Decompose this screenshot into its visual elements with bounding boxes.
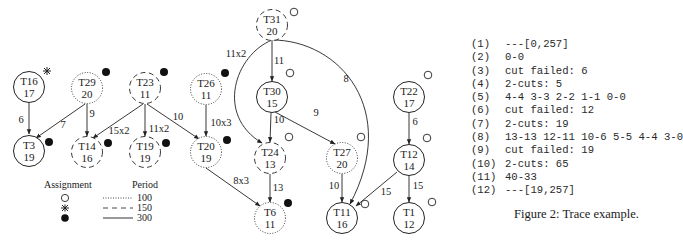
node-value: 11: [201, 89, 212, 101]
trace-line: (3)cut failed: 6: [471, 65, 683, 78]
legend-open-circle-icon: [61, 194, 68, 201]
node-t11: T1116: [327, 203, 358, 234]
trace-line-number: (7): [471, 118, 505, 131]
node-id: T3: [23, 139, 36, 151]
open-circle-icon: [357, 133, 365, 141]
trace-line: (8)13-13 12-11 10-6 5-5 4-4 3-0: [471, 131, 683, 144]
trace-line-text: 2-cuts: 5: [505, 78, 562, 90]
filled-circle-icon: [45, 138, 53, 146]
edge-label: 11x2: [149, 123, 170, 134]
edge-t27-t11: 10: [329, 174, 342, 202]
filled-circle-icon: [160, 68, 168, 76]
node-id: T11: [333, 206, 350, 218]
trace-line: (10)2-cuts: 65: [471, 158, 683, 171]
trace-line-number: (10): [471, 158, 505, 171]
node-value: 12: [404, 218, 415, 230]
trace-line: (6)cut failed: 12: [471, 104, 683, 117]
node-t23: T2311: [130, 73, 161, 104]
edge-label: 10x3: [211, 117, 232, 128]
node-value: 16: [82, 152, 94, 164]
edge-t22-t12: 6: [409, 113, 418, 144]
edge-t16-t3: 6: [18, 103, 29, 134]
edge-label: 10: [173, 111, 184, 122]
open-circle-icon: [286, 69, 294, 77]
node-value: 13: [265, 158, 277, 170]
trace-line-number: (3): [471, 65, 505, 78]
edge-t20-t6: 8x3: [206, 168, 260, 206]
trace-line-number: (1): [471, 38, 505, 51]
edge-label: 9: [89, 108, 94, 119]
edge-t24-t6: 13: [270, 174, 283, 202]
open-circle-icon: [285, 133, 293, 141]
edge-label: 11x2: [226, 48, 247, 59]
edge-label: 15: [381, 186, 392, 197]
trace-line-text: 40-33: [505, 171, 537, 183]
node-t19: T1919: [130, 137, 161, 168]
trace-line: (9)cut failed: 19: [471, 144, 683, 157]
trace-line: (5)4-4 3-3 2-2 1-1 0-0: [471, 91, 683, 104]
node-value: 20: [82, 88, 94, 100]
trace-line: (2)0-0: [471, 51, 683, 64]
edge-t30-t24: 10: [270, 113, 284, 142]
node-value: 19: [201, 152, 213, 164]
edge-label: 6: [412, 116, 417, 127]
node-id: T1: [403, 206, 415, 218]
trace-line: (4)2-cuts: 5: [471, 78, 683, 91]
star-icon: [43, 67, 51, 75]
trace-line-number: (4): [471, 78, 505, 91]
legend-period-title: Period: [132, 179, 158, 190]
node-t6: T611: [255, 203, 286, 234]
edge-label: 7: [60, 119, 65, 130]
node-id: T27: [333, 146, 351, 158]
node-id: T19: [136, 140, 154, 152]
open-circle-icon: [290, 8, 298, 16]
legend: Assignment Period 100 150 300: [44, 179, 158, 223]
trace-line-text: cut failed: 12: [505, 104, 594, 116]
edge-t29-t3: 7: [36, 104, 85, 138]
edge-line: [275, 112, 335, 144]
edge-label: 15x2: [109, 125, 130, 136]
legend-assignment-title: Assignment: [44, 179, 92, 190]
trace-line-number: (2): [471, 51, 505, 64]
trace-line-text: 2-cuts: 19: [505, 118, 569, 130]
node-t1: T112: [394, 203, 425, 234]
open-circle-icon: [424, 71, 432, 79]
edge-label: 8: [343, 73, 348, 84]
trace-line: (12)---[19,257]: [471, 184, 683, 197]
open-circle-icon: [423, 134, 431, 142]
trace-line-number: (6): [471, 104, 505, 117]
open-circle-icon: [428, 198, 436, 206]
edge-label: 9: [313, 107, 318, 118]
node-t24: T2413: [255, 143, 286, 174]
node-id: T23: [136, 76, 154, 88]
node-id: T16: [20, 75, 38, 87]
node-value: 16: [337, 218, 349, 230]
filled-circle-icon: [223, 136, 231, 144]
trace-line-text: 0-0: [505, 51, 524, 63]
node-value: 20: [337, 158, 349, 170]
filled-circle-icon: [104, 139, 112, 147]
trace-line-number: (11): [471, 171, 505, 184]
trace-line-number: (9): [471, 144, 505, 157]
edge-label: 10: [329, 180, 340, 191]
edge-label: 8x3: [233, 175, 249, 186]
node-value: 17: [24, 87, 36, 99]
open-circle-icon: [361, 200, 369, 208]
node-value: 17: [404, 97, 416, 109]
node-id: T31: [263, 13, 281, 25]
filled-circle-icon: [102, 68, 110, 76]
node-value: 20: [267, 25, 279, 37]
filled-circle-icon: [284, 199, 292, 207]
filled-circle-icon: [162, 139, 170, 147]
node-value: 15: [267, 97, 279, 109]
node-value: 11: [265, 218, 276, 230]
edge-line: [206, 168, 260, 206]
edge-label: 13: [273, 182, 284, 193]
node-value: 11: [140, 88, 151, 100]
node-value: 14: [404, 160, 416, 172]
edge-label: 6: [18, 114, 23, 125]
node-t20: T2019: [191, 137, 222, 168]
edge-label: 11: [274, 55, 284, 66]
edge-t12-t1: 15: [409, 176, 423, 202]
node-t14: T1416: [72, 137, 103, 168]
